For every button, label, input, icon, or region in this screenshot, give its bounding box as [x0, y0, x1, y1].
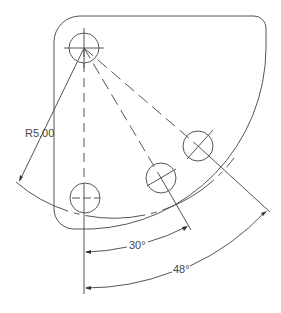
angle-30-label: 30°: [129, 239, 146, 251]
centerline-30: [84, 48, 161, 178]
dim-arc-30b: [148, 227, 186, 242]
hole-30-cross: [147, 169, 176, 186]
centerline-48: [84, 48, 198, 146]
part-drawing: R5.00 30° 48°: [0, 0, 281, 313]
radius-label: R5.00: [25, 127, 54, 139]
bolt-circle-arc: [16, 158, 234, 218]
dim-arc-48b: [190, 212, 265, 266]
hole-48-cross: [187, 130, 213, 159]
angle-48-label: 48°: [173, 263, 190, 275]
arrow-48-left: [85, 286, 91, 290]
dim-arc-30: [86, 247, 127, 252]
drawing-canvas: R5.00 30° 48°: [0, 0, 281, 313]
arrow-30-right: [182, 226, 188, 231]
radius-leader: [20, 48, 84, 180]
dim-arc-48: [86, 272, 172, 288]
extension-30: [161, 178, 191, 230]
arrow-30-left: [85, 250, 91, 254]
